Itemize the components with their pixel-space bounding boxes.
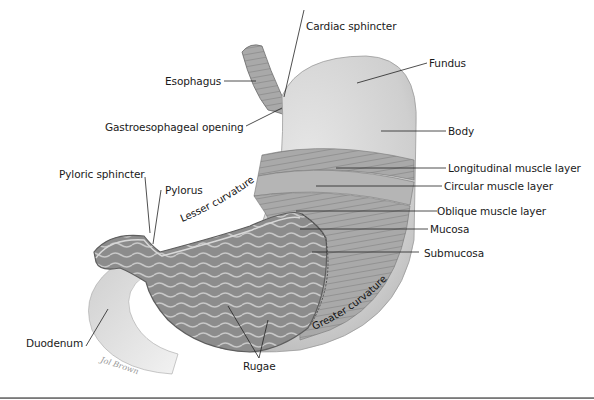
label-pyloric-sphincter: Pyloric sphincter [59, 168, 145, 180]
label-cardiac-sphincter: Cardiac sphincter [306, 20, 396, 32]
label-esophagus: Esophagus [165, 75, 221, 87]
label-submucosa: Submucosa [424, 247, 484, 259]
label-lesser-curvature: Lesser curvature [179, 174, 256, 224]
label-gastroesophageal-opening: Gastroesophageal opening [105, 121, 244, 133]
label-rugae: Rugae [243, 360, 276, 372]
label-body: Body [448, 125, 474, 137]
bottom-divider [0, 397, 594, 399]
label-longitudinal-muscle-layer: Longitudinal muscle layer [448, 162, 581, 174]
stomach-illustration: Jol Brown [0, 0, 594, 400]
stomach-diagram: Jol Brown [0, 0, 594, 400]
label-duodenum: Duodenum [26, 337, 83, 349]
label-oblique-muscle-layer: Oblique muscle layer [437, 205, 546, 217]
label-fundus: Fundus [429, 57, 466, 69]
label-pylorus: Pylorus [165, 184, 203, 196]
label-circular-muscle-layer: Circular muscle layer [444, 180, 553, 192]
label-mucosa: Mucosa [430, 223, 469, 235]
